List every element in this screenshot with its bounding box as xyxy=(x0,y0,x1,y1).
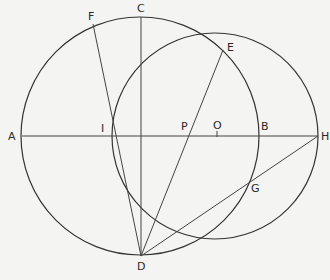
label-E: E xyxy=(227,41,234,54)
label-O: O xyxy=(213,119,222,132)
line-ED xyxy=(141,50,223,256)
label-H: H xyxy=(321,130,329,143)
line-FD xyxy=(93,24,141,256)
geometry-diagram: A B C D E F G H I O P xyxy=(0,0,330,280)
label-I: I xyxy=(101,122,104,135)
label-D: D xyxy=(137,260,145,273)
label-B: B xyxy=(261,120,269,133)
label-G: G xyxy=(251,182,260,195)
label-A: A xyxy=(8,130,16,143)
label-P: P xyxy=(181,120,188,133)
label-C: C xyxy=(137,2,145,15)
label-F: F xyxy=(88,10,94,23)
